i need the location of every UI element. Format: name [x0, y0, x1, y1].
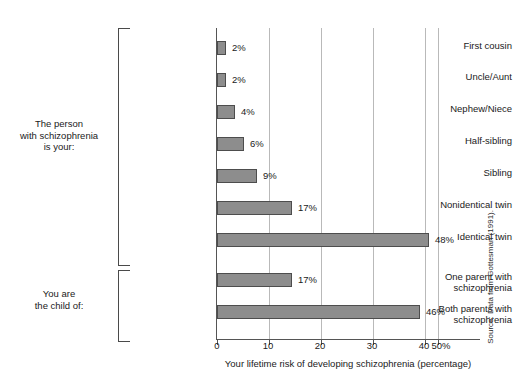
bar-both-parents [217, 305, 420, 319]
plot-area: 2% 2% 4% 6% 9% 17% 48% 17% 46% [216, 28, 480, 340]
bar-sibling [217, 169, 257, 183]
gridline-20 [321, 28, 322, 339]
bar-uncle-aunt [217, 73, 226, 87]
bar-nephew-niece [217, 105, 235, 119]
bar-value-nephew-niece: 4% [241, 105, 255, 119]
bar-value-identical-twin: 48% [435, 233, 454, 247]
chart-figure: The person with schizophrenia is your: Y… [0, 0, 518, 391]
group-label-you-are-child-of: You are the child of: [6, 288, 112, 311]
xtick-label-20: 20 [315, 340, 326, 351]
gridline-30 [373, 28, 374, 339]
gridline-50 [438, 28, 439, 339]
source-note: Source: Data from Gottesman (1991). [486, 210, 495, 344]
gridline-40 [425, 28, 426, 339]
bar-first-cousin [217, 41, 226, 55]
group-label-person-with-schizophrenia: The person with schizophrenia is your: [6, 118, 112, 153]
bar-value-sibling: 9% [263, 169, 277, 183]
bar-value-first-cousin: 2% [232, 41, 246, 55]
bar-half-sibling [217, 137, 244, 151]
xtick-label-40: 40 [419, 340, 430, 351]
bar-identical-twin [217, 233, 429, 247]
bar-value-half-sibling: 6% [250, 137, 264, 151]
xtick-label-50: 50% [431, 340, 450, 351]
group-bracket-1 [118, 28, 130, 266]
xtick-label-10: 10 [263, 340, 274, 351]
bar-value-one-parent: 17% [298, 273, 317, 287]
x-axis-title: Your lifetime risk of developing schizop… [216, 358, 480, 369]
gridline-10 [269, 28, 270, 339]
bar-value-both-parents: 46% [426, 305, 445, 319]
bar-one-parent [217, 273, 292, 287]
bar-value-uncle-aunt: 2% [232, 73, 246, 87]
bar-value-nonidentical-twin: 17% [298, 201, 317, 215]
xtick-label-0: 0 [214, 340, 219, 351]
bar-nonidentical-twin [217, 201, 292, 215]
group-bracket-2 [118, 270, 130, 342]
xtick-label-30: 30 [367, 340, 378, 351]
